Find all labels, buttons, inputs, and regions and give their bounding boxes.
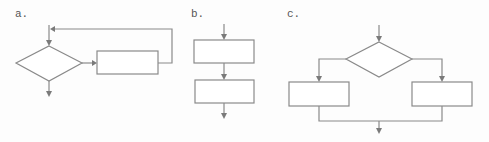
decision-diamond bbox=[346, 42, 412, 77]
diagram-a: a. bbox=[15, 8, 172, 97]
process-box-1 bbox=[194, 40, 254, 63]
diagram-a-label: a. bbox=[15, 8, 28, 20]
decision-diamond bbox=[16, 46, 82, 81]
false-branch-line bbox=[319, 59, 346, 78]
arrowhead-icon bbox=[46, 91, 52, 97]
process-box bbox=[97, 51, 158, 74]
arrowhead-icon bbox=[221, 74, 227, 80]
diagram-b-label: b. bbox=[191, 8, 204, 20]
true-branch-line bbox=[412, 59, 442, 78]
process-box-left bbox=[289, 82, 349, 106]
merge-line bbox=[319, 106, 442, 121]
arrowhead-icon bbox=[376, 128, 382, 134]
arrowhead-icon bbox=[376, 36, 382, 42]
arrowhead-icon bbox=[50, 26, 55, 32]
diagram-b: b. bbox=[191, 8, 254, 119]
arrowhead-icon bbox=[92, 60, 97, 66]
arrowhead-icon bbox=[221, 113, 227, 119]
flowchart-figure: a. b. c. bbox=[0, 0, 489, 142]
process-box-2 bbox=[195, 80, 254, 103]
diagram-c: c. bbox=[287, 8, 472, 134]
arrowhead-icon bbox=[439, 76, 445, 82]
arrowhead-icon bbox=[46, 40, 52, 46]
arrowhead-icon bbox=[221, 34, 227, 40]
process-box-right bbox=[412, 82, 472, 106]
diagram-c-label: c. bbox=[287, 8, 300, 20]
arrowhead-icon bbox=[316, 76, 322, 82]
